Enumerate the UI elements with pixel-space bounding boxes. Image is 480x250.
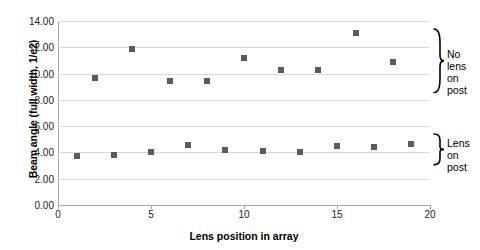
data-point: [353, 30, 359, 36]
annotation-label-lens-on-post: Lens on post: [447, 137, 480, 173]
x-tick-label: 15: [322, 209, 352, 220]
y-tick-label: 6.00: [14, 121, 54, 132]
x-tick-mark: [58, 205, 59, 209]
data-point: [371, 144, 377, 150]
data-point: [167, 78, 173, 84]
data-point: [315, 67, 321, 73]
gridline: [58, 21, 430, 22]
x-tick-label: 10: [229, 209, 259, 220]
x-tick-label: 0: [43, 209, 73, 220]
data-point: [222, 147, 228, 153]
y-tick-label: 14.00: [14, 16, 54, 27]
brace-icon: [433, 133, 445, 166]
data-point: [241, 55, 247, 61]
x-tick-mark: [337, 205, 338, 209]
y-tick-label: 10.00: [14, 68, 54, 79]
scatter-chart: Beam angle (full width, 1/e2) 0.002.004.…: [0, 0, 480, 250]
x-tick-label: 20: [415, 209, 445, 220]
annotation-label-no-lens-on-post: No lens on post: [447, 48, 480, 96]
data-point: [334, 143, 340, 149]
data-point: [297, 149, 303, 155]
data-point: [129, 46, 135, 52]
gridline: [58, 179, 430, 180]
x-tick-mark: [244, 205, 245, 209]
gridline: [58, 100, 430, 101]
gridline: [58, 126, 430, 127]
x-axis-title: Lens position in array: [58, 230, 430, 242]
x-tick-label: 5: [136, 209, 166, 220]
y-tick-label: 2.00: [14, 173, 54, 184]
gridline: [58, 47, 430, 48]
data-point: [74, 153, 80, 159]
data-point: [408, 141, 414, 147]
data-point: [204, 78, 210, 84]
data-point: [111, 152, 117, 158]
data-point: [260, 148, 266, 154]
brace-icon: [433, 28, 445, 94]
data-point: [148, 149, 154, 155]
x-tick-mark: [151, 205, 152, 209]
y-tick-label: 8.00: [14, 94, 54, 105]
data-point: [390, 59, 396, 65]
y-tick-label: 12.00: [14, 42, 54, 53]
data-point: [92, 75, 98, 81]
gridline: [58, 74, 430, 75]
y-tick-label: 4.00: [14, 147, 54, 158]
data-point: [185, 142, 191, 148]
plot-area: [58, 21, 430, 205]
x-tick-mark: [430, 205, 431, 209]
data-point: [278, 67, 284, 73]
